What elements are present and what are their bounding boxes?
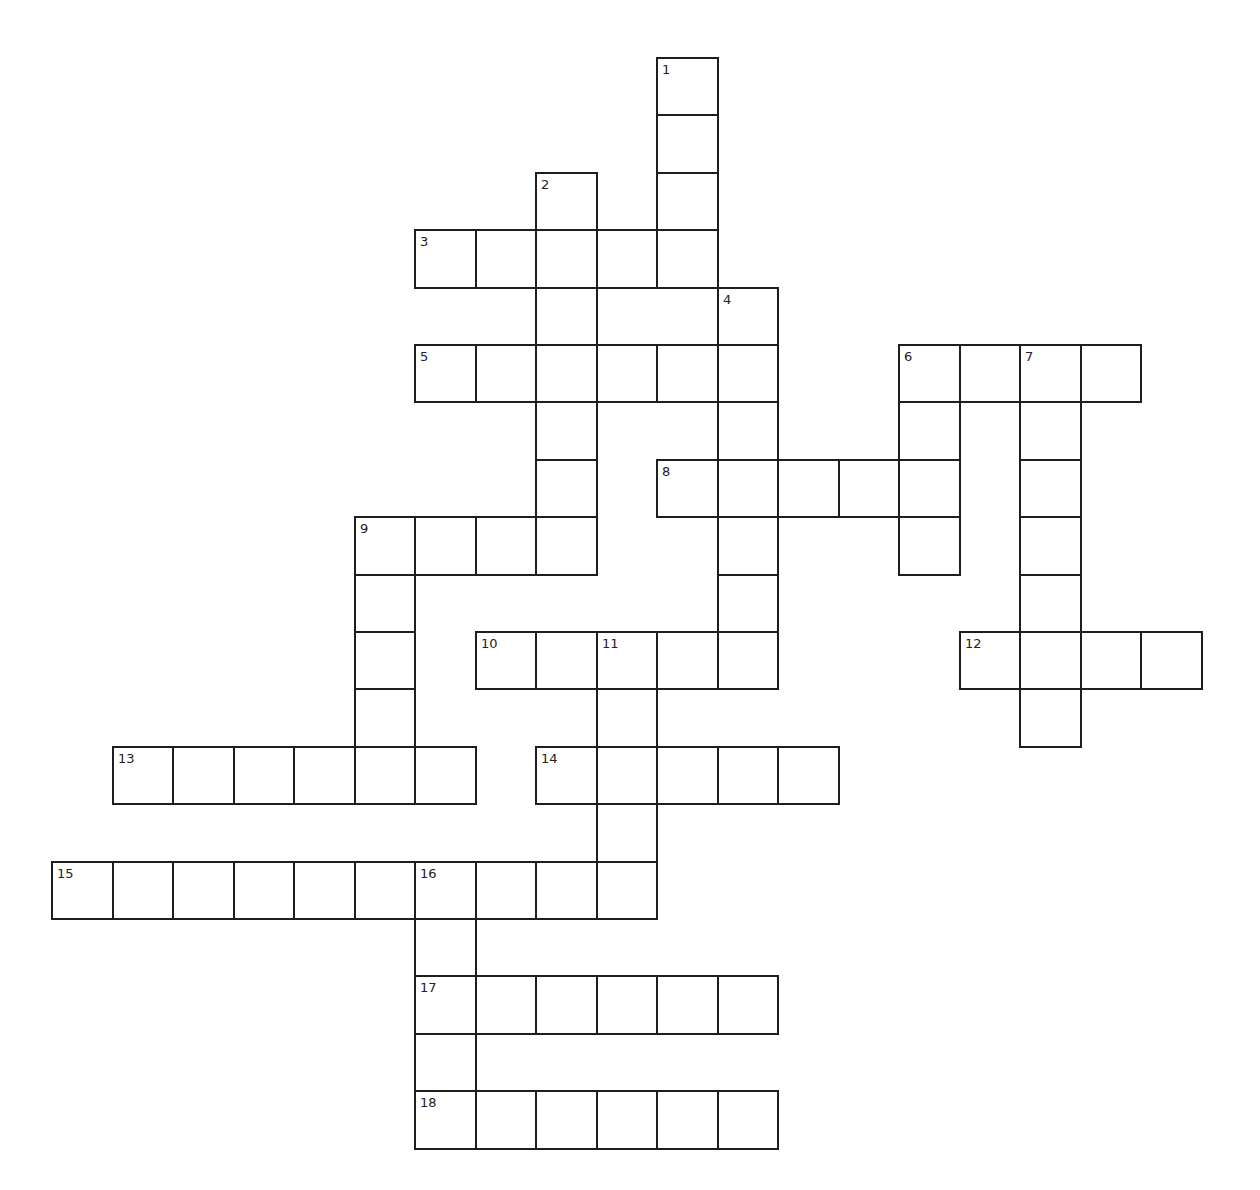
crossword-cell[interactable] [475,1090,537,1150]
clue-number: 3 [420,235,428,248]
crossword-cell[interactable] [898,459,961,518]
clue-number: 13 [118,752,135,765]
crossword-cell[interactable]: 18 [414,1090,477,1150]
crossword-cell[interactable] [293,746,356,805]
crossword-cell[interactable]: 1 [656,57,719,116]
clue-number: 4 [723,293,731,306]
crossword-cell[interactable] [596,1090,658,1150]
crossword-cell[interactable] [535,287,598,346]
clue-number: 1 [662,63,670,76]
crossword-grid: 123456789101112131415161718 [0,0,1260,1190]
crossword-cell[interactable] [717,344,779,403]
crossword-cell[interactable] [1019,688,1082,748]
crossword-cell[interactable] [475,229,537,289]
crossword-cell[interactable] [233,861,295,920]
crossword-cell[interactable] [596,688,658,748]
crossword-cell[interactable] [898,401,961,461]
crossword-cell[interactable] [596,975,658,1035]
crossword-cell[interactable] [535,401,598,461]
crossword-cell[interactable] [1019,631,1082,690]
crossword-cell[interactable] [717,1090,779,1150]
crossword-cell[interactable]: 6 [898,344,961,403]
crossword-cell[interactable] [1019,401,1082,461]
crossword-cell[interactable] [535,459,598,518]
crossword-cell[interactable] [475,861,537,920]
crossword-cell[interactable] [414,516,477,576]
crossword-cell[interactable] [777,459,840,518]
crossword-cell[interactable]: 10 [475,631,537,690]
crossword-cell[interactable] [777,746,840,805]
crossword-cell[interactable] [475,344,537,403]
crossword-cell[interactable] [475,975,537,1035]
crossword-cell[interactable] [535,229,598,289]
crossword-cell[interactable]: 3 [414,229,477,289]
clue-number: 9 [360,522,368,535]
crossword-cell[interactable] [535,975,598,1035]
clue-number: 11 [602,637,619,650]
crossword-cell[interactable] [717,746,779,805]
crossword-cell[interactable] [656,631,719,690]
crossword-cell[interactable] [354,746,416,805]
crossword-cell[interactable] [112,861,174,920]
crossword-cell[interactable] [596,344,658,403]
crossword-cell[interactable] [535,631,598,690]
crossword-cell[interactable] [414,1033,477,1092]
crossword-cell[interactable] [414,918,477,977]
crossword-cell[interactable] [596,746,658,805]
crossword-cell[interactable] [475,516,537,576]
crossword-cell[interactable]: 5 [414,344,477,403]
crossword-cell[interactable] [1019,516,1082,576]
crossword-cell[interactable] [354,861,416,920]
crossword-cell[interactable]: 17 [414,975,477,1035]
crossword-cell[interactable] [838,459,900,518]
crossword-cell[interactable] [717,459,779,518]
crossword-cell[interactable] [535,861,598,920]
crossword-cell[interactable] [293,861,356,920]
clue-number: 14 [541,752,558,765]
clue-number: 16 [420,867,437,880]
crossword-cell[interactable] [1019,459,1082,518]
crossword-cell[interactable] [717,975,779,1035]
crossword-cell[interactable]: 15 [51,861,114,920]
crossword-cell[interactable] [233,746,295,805]
crossword-cell[interactable] [717,516,779,576]
crossword-cell[interactable] [535,516,598,576]
crossword-cell[interactable]: 7 [1019,344,1082,403]
crossword-cell[interactable] [717,574,779,633]
crossword-cell[interactable] [1080,631,1142,690]
crossword-cell[interactable] [535,344,598,403]
crossword-cell[interactable] [656,975,719,1035]
crossword-cell[interactable] [717,401,779,461]
crossword-cell[interactable]: 9 [354,516,416,576]
crossword-cell[interactable] [1140,631,1203,690]
crossword-cell[interactable]: 16 [414,861,477,920]
crossword-cell[interactable] [717,631,779,690]
crossword-cell[interactable] [596,803,658,863]
crossword-cell[interactable]: 14 [535,746,598,805]
crossword-cell[interactable] [656,1090,719,1150]
crossword-cell[interactable] [1019,574,1082,633]
crossword-cell[interactable] [1080,344,1142,403]
crossword-cell[interactable]: 2 [535,172,598,231]
crossword-cell[interactable] [354,574,416,633]
crossword-cell[interactable] [656,344,719,403]
crossword-cell[interactable] [898,516,961,576]
crossword-cell[interactable] [414,746,477,805]
crossword-cell[interactable]: 4 [717,287,779,346]
crossword-cell[interactable] [656,746,719,805]
crossword-cell[interactable] [535,1090,598,1150]
crossword-cell[interactable] [596,229,658,289]
crossword-cell[interactable] [596,861,658,920]
crossword-cell[interactable] [959,344,1021,403]
crossword-cell[interactable] [656,172,719,231]
crossword-cell[interactable]: 13 [112,746,174,805]
crossword-cell[interactable] [172,861,235,920]
crossword-cell[interactable]: 12 [959,631,1021,690]
crossword-cell[interactable] [172,746,235,805]
crossword-cell[interactable] [656,229,719,289]
crossword-cell[interactable] [354,631,416,690]
crossword-cell[interactable]: 8 [656,459,719,518]
crossword-cell[interactable] [656,114,719,174]
crossword-cell[interactable]: 11 [596,631,658,690]
crossword-cell[interactable] [354,688,416,748]
